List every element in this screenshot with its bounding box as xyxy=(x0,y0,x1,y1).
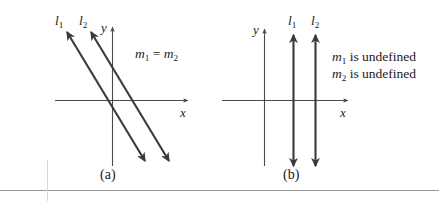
panel-b-slope-statement-2: m2 is undefined xyxy=(332,67,416,83)
panel-a-line-l1 xyxy=(67,32,145,161)
panel-b-label-l2: l2 xyxy=(311,14,319,30)
panel-b-caption: (b) xyxy=(283,168,299,182)
panel-b-x-axis-label: x xyxy=(340,106,346,119)
panel-a-slope-relation: m1 = m2 xyxy=(135,47,178,63)
panel-a-x-axis-label: x xyxy=(180,106,186,119)
panel-a-label-l1: l1 xyxy=(55,14,63,30)
panel-b-label-l1: l1 xyxy=(288,14,296,30)
panel-a-y-axis-label: y xyxy=(101,21,107,34)
panel-b-slope-statement-1: m1 is undefined xyxy=(332,50,416,66)
figure-root: l1 l2 y x m1 = m2 (a) l1 l2 y x m1 is un… xyxy=(0,0,439,201)
panel-b-y-axis-label: y xyxy=(253,23,259,36)
figure-canvas xyxy=(0,0,439,201)
panel-b-axes xyxy=(222,29,348,166)
panel-a-caption: (a) xyxy=(100,168,116,182)
panel-a-label-l2: l2 xyxy=(79,14,87,30)
